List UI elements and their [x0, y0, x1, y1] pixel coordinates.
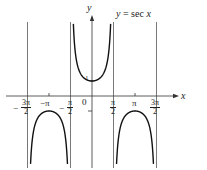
origin-label: 0 [82, 98, 87, 107]
x-tick-3pi-2-label: 3π2 [150, 99, 160, 116]
x-tick-pi-label: π [132, 99, 137, 108]
x-tick-neg-3pi-2-label: 3π2 [21, 99, 31, 116]
equation-label: y = sec x [116, 9, 151, 19]
y-axis-label: y [87, 3, 91, 13]
x-tick-neg-3pi-2-sign: − [13, 104, 18, 113]
sec-branch [117, 111, 154, 164]
x-tick-neg-pi-2-label: π2 [67, 99, 73, 116]
x-axis-arrow-icon [173, 94, 179, 98]
x-tick-neg-pi-2-sign: − [59, 104, 64, 113]
x-axis-label: x [181, 91, 185, 101]
sec-graph [0, 0, 207, 170]
sec-branch [31, 111, 68, 164]
y-tick-1-label: 1 [85, 75, 89, 82]
x-tick-pi-2-label: π2 [110, 99, 116, 116]
x-tick-neg-pi-label: −π [40, 99, 50, 108]
y-axis-arrow-icon [90, 15, 94, 21]
